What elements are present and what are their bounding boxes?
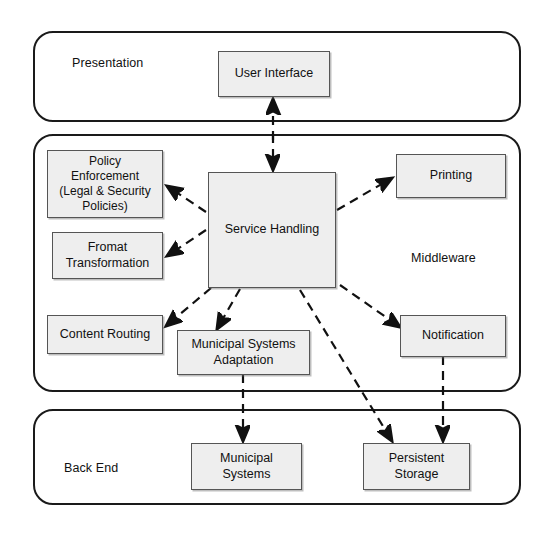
component-policy-enforcement[interactable]: Policy Enforcement (Legal & Security Pol… (47, 150, 163, 218)
component-label: Service Handling (225, 222, 320, 238)
layer-label-presentation: Presentation (72, 56, 143, 70)
component-service-handling[interactable]: Service Handling (208, 172, 336, 288)
component-label: Content Routing (60, 327, 150, 343)
component-municipal-systems-adaptation[interactable]: Municipal Systems Adaptation (177, 330, 310, 375)
component-label: Policy Enforcement (Legal & Security Pol… (59, 154, 150, 214)
component-label: Municipal Systems Adaptation (191, 337, 295, 368)
component-municipal-systems[interactable]: Municipal Systems (191, 443, 302, 490)
component-label: Fromat Transformation (66, 240, 150, 271)
component-fromat-transformation[interactable]: Fromat Transformation (52, 232, 163, 279)
component-label: Printing (430, 168, 472, 184)
component-printing[interactable]: Printing (396, 154, 506, 198)
component-persistent-storage[interactable]: Persistent Storage (363, 443, 470, 490)
component-label: Persistent Storage (389, 451, 445, 482)
component-notification[interactable]: Notification (400, 315, 506, 357)
component-user-interface[interactable]: User Interface (218, 51, 330, 97)
layer-label-middleware: Middleware (411, 251, 476, 265)
component-label: Notification (422, 328, 484, 344)
component-label: Municipal Systems (220, 451, 273, 482)
layer-label-backend: Back End (64, 461, 118, 475)
architecture-diagram: Presentation Middleware Back End Us (0, 0, 554, 535)
component-content-routing[interactable]: Content Routing (47, 315, 163, 354)
component-label: User Interface (235, 66, 314, 82)
